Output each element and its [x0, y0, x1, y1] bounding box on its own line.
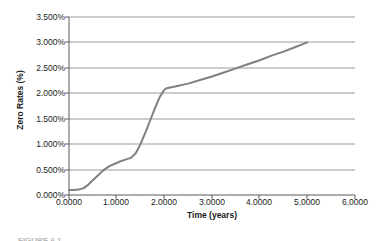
x-axis-tick-labels: 0.0000 1.0000 2.0000 3.0000 4.0000 5.000… [0, 0, 381, 241]
figure-caption-fragment: FIGURE 6.1 [18, 236, 138, 241]
zero-rates-line-chart: 3.500% 3.000% 2.500% 2.000% 1.500% 1.000… [0, 0, 381, 241]
x-tick-label: 6.0000 [325, 197, 381, 207]
y-axis-title: Zero Rates (%) [15, 40, 25, 160]
x-axis-title: Time (years) [69, 210, 355, 220]
